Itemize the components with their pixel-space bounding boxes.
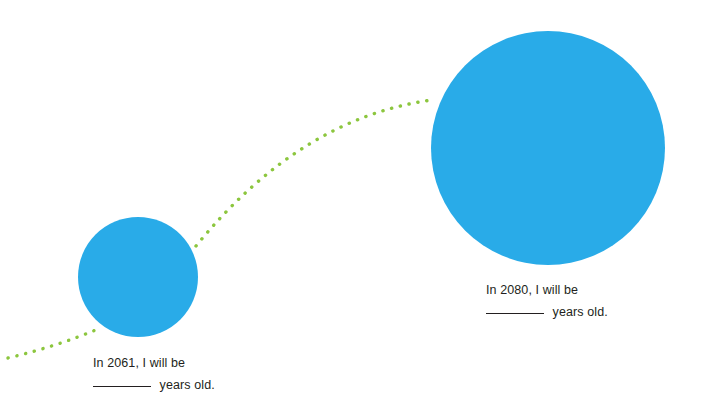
caption-2080-line2: years old. (486, 301, 608, 323)
large-circle-2080 (431, 31, 665, 265)
caption-2061: In 2061, I will be years old. (93, 352, 215, 396)
worksheet-canvas: In 2061, I will be years old. In 2080, I… (0, 0, 702, 415)
caption-2080: In 2080, I will be years old. (486, 279, 608, 323)
caption-2080-blank-field[interactable] (486, 313, 544, 314)
small-circle-2061 (78, 217, 198, 337)
caption-2080-line1: In 2080, I will be (486, 279, 608, 301)
dotted-connector-main-curve (196, 100, 432, 246)
caption-2080-line2-suffix: years old. (549, 305, 608, 319)
dotted-connector-left-tail (8, 329, 98, 358)
caption-2061-blank-field[interactable] (93, 386, 151, 387)
caption-2061-line2: years old. (93, 374, 215, 396)
caption-2061-line2-suffix: years old. (156, 378, 215, 392)
caption-2061-line1: In 2061, I will be (93, 352, 215, 374)
